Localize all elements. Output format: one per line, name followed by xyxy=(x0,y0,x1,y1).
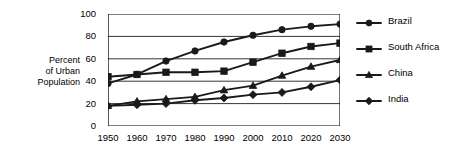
x-tick-label-2000: 2000 xyxy=(238,133,268,143)
series-brazil xyxy=(108,21,340,87)
y-tick-label-80: 80 xyxy=(70,31,96,41)
series-0-pt-6-marker-circle xyxy=(279,26,285,32)
y-tick-label-100: 100 xyxy=(70,9,96,19)
x-tick-label-1960: 1960 xyxy=(122,133,152,143)
legend-marker-diamond-icon xyxy=(356,93,382,105)
series-3-pt-4-marker-diamond xyxy=(220,94,228,102)
series-0-pt-0-marker-circle xyxy=(108,80,111,86)
series-1-pt-8-marker-square xyxy=(337,40,340,46)
legend-1-marker-square xyxy=(366,46,372,52)
legend: BrazilSouth AfricaChinaIndia xyxy=(356,14,462,118)
legend-label: China xyxy=(388,68,413,78)
series-3-pt-6-marker-diamond xyxy=(278,88,286,96)
legend-marker-square-icon xyxy=(356,41,382,53)
legend-sample-svg xyxy=(356,43,382,55)
series-1-pt-3-marker-square xyxy=(192,69,198,75)
plot-svg xyxy=(108,14,340,126)
legend-item-china[interactable]: China xyxy=(356,66,413,80)
x-tick-label-2010: 2010 xyxy=(267,133,297,143)
y-tick-label-0: 0 xyxy=(70,121,96,131)
series-1-pt-6-marker-square xyxy=(279,50,285,56)
legend-sample-svg xyxy=(356,95,382,107)
series-2-pt-8-marker-triangle xyxy=(336,56,340,63)
series-3-pt-5-marker-diamond xyxy=(249,91,257,99)
legend-label: South Africa xyxy=(388,42,439,52)
plot-area xyxy=(108,14,340,126)
series-0-pt-8-marker-circle xyxy=(337,21,340,27)
series-3-pt-8-marker-diamond xyxy=(336,76,340,84)
series-1-pt-0-marker-square xyxy=(108,74,111,80)
series-1-pt-5-marker-square xyxy=(250,59,256,65)
x-tick-label-1950: 1950 xyxy=(93,133,123,143)
x-tick-label-1970: 1970 xyxy=(151,133,181,143)
series-1-pt-4-marker-square xyxy=(221,68,227,74)
legend-item-brazil[interactable]: Brazil xyxy=(356,14,412,28)
series-0-pt-7-marker-circle xyxy=(308,23,314,29)
legend-0-marker-circle xyxy=(366,20,372,26)
y-tick-label-20: 20 xyxy=(70,99,96,109)
legend-item-india[interactable]: India xyxy=(356,92,409,106)
x-tick-label-1980: 1980 xyxy=(180,133,210,143)
series-3-pt-7-marker-diamond xyxy=(307,83,315,91)
x-tick-label-2030: 2030 xyxy=(325,133,355,143)
legend-marker-triangle-icon xyxy=(356,67,382,79)
series-0-pt-3-marker-circle xyxy=(192,48,198,54)
x-tick-label-2020: 2020 xyxy=(296,133,326,143)
series-1-pt-2-marker-square xyxy=(163,69,169,75)
series-south-africa xyxy=(108,40,340,80)
legend-label: Brazil xyxy=(388,16,412,26)
legend-sample-svg xyxy=(356,69,382,81)
series-1-pt-1-marker-square xyxy=(134,71,140,77)
series-0-pt-4-marker-circle xyxy=(221,39,227,45)
x-tick-label-1990: 1990 xyxy=(209,133,239,143)
series-0-pt-5-marker-circle xyxy=(250,32,256,38)
urban-population-line-chart: Percent of Urban Population 020406080100… xyxy=(0,0,465,165)
y-tick-label-60: 60 xyxy=(70,54,96,64)
series-0-pt-2-marker-circle xyxy=(163,58,169,64)
series-1-pt-7-marker-square xyxy=(308,43,314,49)
y-tick-label-40: 40 xyxy=(70,76,96,86)
legend-marker-circle-icon xyxy=(356,15,382,27)
legend-sample-svg xyxy=(356,17,382,29)
legend-label: India xyxy=(388,94,409,104)
legend-item-south-africa[interactable]: South Africa xyxy=(356,40,439,54)
legend-3-marker-diamond xyxy=(365,97,373,105)
